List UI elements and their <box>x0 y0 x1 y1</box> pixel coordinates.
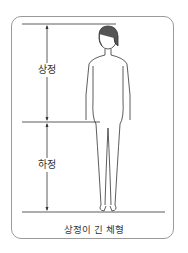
upper-body-label: 상정 <box>38 63 56 77</box>
lower-body-label: 하정 <box>38 158 56 172</box>
diagram-caption: 상정이 긴 체형 <box>0 222 188 236</box>
figure-outline <box>86 26 130 211</box>
proportion-diagram <box>0 0 188 253</box>
